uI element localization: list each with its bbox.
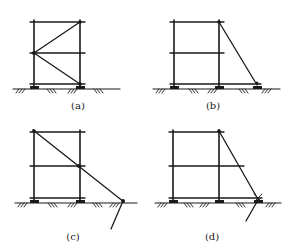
scaffold-bracing-figure: (a) (b) — [0, 0, 292, 247]
ground-hatching — [158, 203, 275, 207]
panel-c: (c) — [15, 129, 137, 242]
coupler-node — [217, 129, 221, 133]
coupler-node — [78, 82, 82, 86]
coupler-node — [217, 20, 221, 24]
panel-d: (d) — [155, 129, 281, 242]
coupler-node — [78, 20, 82, 24]
coupler-node — [32, 129, 36, 133]
panel-a: (a) — [13, 20, 120, 111]
coupler-node — [256, 82, 259, 85]
base-plate — [253, 86, 262, 89]
panel-label-a: (a) — [71, 100, 85, 111]
panel-label-c: (c) — [66, 231, 80, 242]
panel-b: (b) — [153, 20, 280, 111]
panel-label-b: (b) — [206, 100, 220, 111]
ground-hatching — [18, 203, 119, 207]
upper-diagonal-brace — [34, 22, 80, 53]
coupler-node — [32, 51, 36, 55]
panel-label-d: (d) — [205, 231, 219, 242]
raking-shore — [219, 22, 257, 85]
coupler-node — [77, 164, 81, 168]
coupler-node — [121, 199, 125, 203]
lower-diagonal-brace — [34, 53, 80, 84]
